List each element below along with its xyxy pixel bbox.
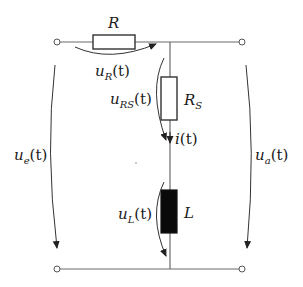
- inductor-l: [161, 190, 177, 233]
- resistor-rs: [161, 77, 177, 120]
- terminal-bottom-left: [54, 266, 60, 272]
- stray-dot: [135, 162, 137, 164]
- resistor-rs-label: RS: [183, 91, 202, 111]
- voltage-arrow-ue: [50, 65, 57, 248]
- voltage-arrow-ua: [246, 65, 251, 248]
- circuit-diagram: R RS L uR(t) uRS(t) i(t) uL(t) ue(t) ua(…: [0, 0, 303, 287]
- current-label-i: i(t): [175, 130, 198, 148]
- voltage-label-ur: uR(t): [95, 62, 130, 82]
- voltage-label-urs: uRS(t): [110, 90, 152, 110]
- voltage-label-ua: ua(t): [255, 146, 288, 166]
- terminal-top-left: [54, 39, 60, 45]
- voltage-label-ue: ue(t): [14, 146, 47, 166]
- terminal-top-right: [239, 39, 245, 45]
- inductor-l-label: L: [183, 204, 194, 222]
- voltage-label-ul: uL(t): [118, 205, 152, 225]
- resistor-r-label: R: [107, 14, 119, 32]
- terminal-bottom-right: [239, 266, 245, 272]
- resistor-r: [93, 35, 135, 49]
